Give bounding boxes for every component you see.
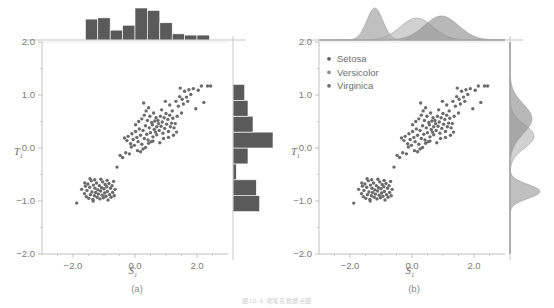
panel-b-point: [445, 103, 448, 106]
panel-a-point: [168, 113, 171, 116]
legend-label-setosa[interactable]: Setosa: [337, 53, 367, 64]
panel-b-svg: −2.00.02.02.01.00.0−1.0−2.0 SetosaVersic…: [277, 0, 554, 308]
panel-b-point: [367, 190, 370, 193]
panel-b-point: [438, 120, 441, 123]
panel-a-point: [105, 185, 108, 188]
panel-a-point: [152, 111, 155, 114]
panel-a-point: [140, 117, 143, 120]
panel-b-point: [362, 189, 365, 192]
panel-b-point: [486, 84, 489, 87]
panel-a-point: [136, 149, 139, 152]
panel-a-point: [206, 84, 209, 87]
legend-marker-setosa: [327, 57, 331, 61]
panel-b-point: [398, 156, 401, 159]
panel-a-point: [144, 124, 147, 127]
panel-b-point: [402, 139, 405, 142]
panel-b-point: [429, 111, 432, 114]
panel-b-point: [445, 113, 448, 116]
histogram-bar: [233, 164, 236, 180]
panel-a-point: [175, 115, 178, 118]
histogram-bar: [233, 196, 260, 212]
panel-b-point: [363, 182, 366, 185]
panel-b-point: [412, 136, 415, 139]
panel-a-point: [143, 113, 146, 116]
panel-b-point: [418, 129, 421, 132]
panel-b-point: [411, 130, 414, 133]
panel-a-point: [159, 115, 162, 118]
panel-b-point: [386, 196, 389, 199]
panel-b-ytick-label: 1.0: [299, 89, 312, 100]
panel-b-point: [417, 117, 420, 120]
panel-b-point: [474, 89, 477, 92]
panel-a-point: [174, 100, 177, 103]
panel-b-point: [477, 84, 480, 87]
panel-b-point: [451, 100, 454, 103]
histogram-bar: [85, 19, 97, 40]
panel-b-point: [407, 132, 410, 135]
legend[interactable]: SetosaVersicolorVirginica: [327, 53, 379, 91]
panel-b-point: [441, 100, 444, 103]
panel-a-point: [156, 119, 159, 122]
panel-a-point: [130, 145, 133, 148]
panel-a-point: [107, 182, 110, 185]
histogram-bar: [172, 34, 184, 40]
panel-a-point: [169, 125, 172, 128]
panel-a-point: [167, 136, 170, 139]
kde-curve: [510, 42, 534, 254]
panel-b-point: [456, 86, 459, 89]
histogram-bar: [197, 35, 209, 40]
panel-b-point: [459, 102, 462, 105]
panel-a-point: [154, 130, 157, 133]
panel-a-point: [185, 95, 188, 98]
panel-b-top-kde: [303, 8, 523, 40]
panel-b-point: [438, 131, 441, 134]
panel-a-point: [147, 106, 150, 109]
panel-a-point: [194, 107, 197, 110]
panel-a-point: [163, 127, 166, 130]
panel-b-ytick-label: −1.0: [293, 195, 312, 206]
panel-a-point: [168, 103, 171, 106]
panel-a-xtick-label: 0.0: [128, 260, 141, 271]
panel-b-point: [374, 192, 377, 195]
panel-b-point: [413, 149, 416, 152]
panel-a-point: [151, 135, 154, 138]
panel-a-ytick-label: −1.0: [16, 195, 35, 206]
panel-b-point: [483, 84, 486, 87]
panel-a-point: [128, 152, 131, 155]
panel-b-point: [428, 123, 431, 126]
panel-a-point: [157, 122, 160, 125]
panel-b-point: [428, 139, 431, 142]
panel-b-point: [421, 124, 424, 127]
panel-b-point: [360, 181, 363, 184]
panel-a-point: [141, 129, 144, 132]
panel-a-point: [182, 102, 185, 105]
panel-a-point: [171, 117, 174, 120]
panel-b-point: [408, 138, 411, 141]
panel-b-point: [365, 177, 368, 180]
panel-b-point: [383, 198, 386, 201]
histogram-bar: [185, 35, 197, 40]
histogram-bar: [233, 132, 273, 148]
panel-b-point: [463, 100, 466, 103]
panel-b-ytick-label: 0.0: [299, 142, 312, 153]
panel-a-point: [91, 199, 94, 202]
panel-a-point: [115, 165, 118, 168]
panel-b-point: [460, 90, 463, 93]
panel-a-point: [148, 126, 151, 129]
panel-a-point: [200, 84, 203, 87]
panel-b-point: [352, 201, 355, 204]
panel-a-point: [143, 137, 146, 140]
panel-a-point: [183, 90, 186, 93]
panel-b-point: [431, 130, 434, 133]
panel-b-point: [423, 119, 426, 122]
panel-b-point: [416, 150, 419, 153]
panel-a-point: [134, 130, 137, 133]
panel-a-spines: [42, 42, 228, 254]
panel-b-point: [457, 111, 460, 114]
panel-b-point: [372, 181, 375, 184]
legend-label-versicolor[interactable]: Versicolor: [337, 67, 379, 78]
panel-b-point: [382, 179, 385, 182]
legend-label-virginica[interactable]: Virginica: [337, 80, 374, 91]
panel-a-point: [189, 93, 192, 96]
panel-a-point: [155, 125, 158, 128]
